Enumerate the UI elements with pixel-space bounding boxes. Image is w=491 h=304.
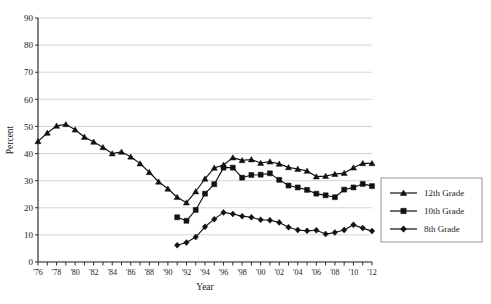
x-tick-label-92: '92	[182, 268, 191, 277]
data-point	[230, 211, 235, 217]
data-point	[305, 187, 310, 192]
data-point	[323, 231, 328, 237]
data-point	[193, 207, 198, 212]
data-point	[276, 219, 281, 225]
x-tick-label-90: '90	[163, 268, 172, 277]
data-point	[72, 127, 78, 132]
data-point	[286, 224, 291, 230]
data-point	[314, 227, 319, 233]
x-axis: '76'78'80'82'84'86'88'90'92'94'96'98'00'…	[33, 262, 376, 277]
data-point	[100, 144, 106, 149]
data-point	[230, 165, 235, 170]
series-line	[38, 124, 372, 202]
data-point	[351, 222, 356, 228]
data-point	[370, 184, 375, 189]
x-tick-label-06: '06	[312, 268, 321, 277]
y-tick-label-80: 80	[24, 40, 34, 50]
data-point	[91, 139, 97, 144]
chart-legend: 12th Grade10th Grade8th Grade	[381, 178, 482, 242]
data-point	[295, 227, 300, 233]
chart-figure: 0102030405060708090 '76'78'80'82'84'86'8…	[0, 0, 491, 304]
data-point	[267, 217, 272, 223]
data-point	[342, 187, 347, 192]
x-tick-label-82: '82	[89, 268, 98, 277]
data-point	[360, 225, 365, 231]
data-point	[203, 191, 208, 196]
x-tick-label-76: '76	[33, 268, 42, 277]
data-point	[240, 175, 245, 180]
line-chart: 0102030405060708090 '76'78'80'82'84'86'8…	[0, 0, 491, 304]
y-tick-label-90: 90	[24, 13, 34, 23]
data-point	[304, 228, 309, 234]
y-tick-label-40: 40	[24, 149, 34, 159]
data-point	[258, 217, 263, 223]
x-axis-title: Year	[196, 282, 214, 292]
y-tick-label-60: 60	[24, 95, 34, 105]
x-tick-label-78: '78	[52, 268, 61, 277]
data-point	[258, 172, 263, 177]
x-tick-label-04: '04	[293, 268, 302, 277]
y-axis: 0102030405060708090	[24, 13, 38, 267]
x-tick-label-12: '12	[367, 268, 376, 277]
data-point	[221, 165, 226, 170]
data-point	[184, 239, 189, 245]
data-point	[249, 172, 254, 177]
data-point	[230, 155, 236, 160]
data-point	[341, 227, 346, 233]
x-tick-label-80: '80	[70, 268, 79, 277]
y-axis-title: Percent	[5, 125, 15, 154]
data-point	[286, 183, 291, 188]
data-point	[174, 242, 179, 248]
y-tick-label-70: 70	[24, 67, 34, 77]
data-point	[239, 213, 244, 219]
data-point	[118, 149, 124, 154]
x-tick-label-94: '94	[200, 268, 209, 277]
x-tick-label-02: '02	[274, 268, 283, 277]
y-tick-label-0: 0	[29, 257, 34, 267]
data-point	[351, 185, 356, 190]
data-point	[350, 165, 356, 170]
data-point	[323, 193, 328, 198]
data-point	[332, 195, 337, 200]
data-point	[314, 191, 319, 196]
gridlines-group	[38, 18, 372, 235]
series-8th-grade	[174, 209, 374, 248]
data-point	[295, 185, 300, 190]
x-tick-label-84: '84	[107, 268, 116, 277]
x-tick-label-10: '10	[349, 268, 358, 277]
legend-label: 10th Grade	[424, 206, 464, 216]
x-tick-label-00: '00	[256, 268, 265, 277]
data-point	[184, 218, 189, 223]
data-series-group	[35, 121, 375, 248]
data-point	[128, 154, 134, 159]
data-point	[369, 228, 374, 234]
y-tick-label-10: 10	[24, 230, 34, 240]
legend-label: 12th Grade	[424, 188, 464, 198]
data-point	[277, 177, 282, 182]
data-point	[249, 214, 254, 220]
data-point	[360, 181, 365, 186]
legend-marker-square	[401, 208, 406, 213]
data-point	[212, 182, 217, 187]
x-tick-label-08: '08	[330, 268, 339, 277]
x-tick-label-98: '98	[237, 268, 246, 277]
legend-label: 8th Grade	[424, 224, 460, 234]
data-point	[63, 121, 69, 126]
x-tick-label-86: '86	[126, 268, 135, 277]
x-tick-label-88: '88	[145, 268, 154, 277]
y-tick-label-30: 30	[24, 176, 34, 186]
data-point	[175, 215, 180, 220]
y-tick-label-20: 20	[24, 203, 34, 213]
data-point	[267, 171, 272, 176]
x-tick-label-96: '96	[219, 268, 228, 277]
y-tick-label-50: 50	[24, 122, 34, 132]
